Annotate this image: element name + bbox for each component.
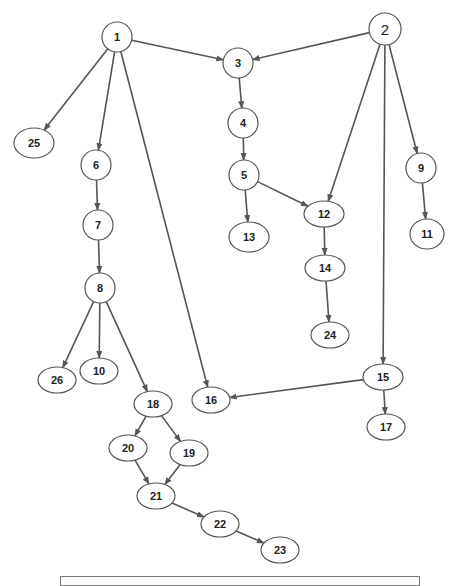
node-label: 18 [147,398,159,410]
edge-18-to-20 [135,416,146,436]
edge-1-to-25 [44,49,108,130]
node-11: 11 [410,219,444,249]
node-19: 19 [170,440,208,466]
node-label: 24 [324,329,337,341]
node-label: 19 [183,447,195,459]
node-label: 21 [150,490,162,502]
edge-5-to-13 [245,190,248,222]
node-label: 12 [318,208,330,220]
node-7: 7 [83,210,113,240]
node-label: 1 [114,31,120,43]
node-label: 22 [214,518,226,530]
edge-1-to-16 [121,52,208,388]
node-label: 16 [205,394,217,406]
edge-7-to-8 [99,240,100,273]
node-3: 3 [223,48,253,78]
edge-12-to-14 [324,227,325,255]
node-15: 15 [363,364,403,390]
node-24: 24 [311,322,349,348]
node-label: 17 [380,421,392,433]
node-26: 26 [38,367,76,393]
node-label: 14 [319,262,332,274]
edge-19-to-21 [165,465,180,485]
edge-9-to-11 [422,183,425,219]
edge-21-to-22 [172,503,204,517]
caption-box [60,576,420,586]
node-16: 16 [192,387,230,413]
node-22: 22 [201,511,239,537]
node-label: 15 [377,371,389,383]
node-label: 5 [241,169,247,181]
node-9: 9 [406,153,436,183]
edge-3-to-4 [239,78,242,108]
node-23: 23 [261,537,299,563]
node-1: 1 [102,22,132,52]
edge-2-to-15 [383,45,385,364]
edge-22-to-23 [236,531,264,543]
node-18: 18 [134,391,172,417]
node-label: 13 [243,231,255,243]
edge-14-to-24 [326,281,329,322]
node-10: 10 [80,358,118,384]
node-8: 8 [85,273,115,303]
node-label: 11 [421,228,433,240]
node-label: 6 [93,159,99,171]
node-21: 21 [137,483,175,509]
node-label: 23 [274,544,286,556]
edge-18-to-19 [162,416,181,442]
node-25: 25 [14,128,54,158]
node-20: 20 [109,435,147,461]
node-6: 6 [81,150,111,180]
node-label: 4 [240,117,247,129]
node-label: 20 [122,442,134,454]
node-4: 4 [228,108,258,138]
edge-15-to-17 [384,390,385,414]
edge-2-to-3 [253,33,370,60]
node-label: 26 [51,374,63,386]
edge-1-to-3 [132,40,224,60]
edge-8-to-10 [99,303,100,358]
node-label: 9 [418,162,424,174]
edge-2-to-12 [328,44,380,201]
edge-8-to-26 [63,302,94,368]
node-5: 5 [229,160,259,190]
node-12: 12 [304,201,344,227]
node-2: 2 [369,13,401,45]
node-label: 3 [235,57,241,69]
edge-1-to-6 [98,52,114,150]
node-13: 13 [229,222,269,252]
node-label: 10 [93,365,105,377]
edge-5-to-12 [258,182,309,207]
nodes-layer: 1234567891011121314151617181920212223242… [14,13,444,563]
edge-20-to-21 [135,460,149,484]
node-label: 25 [28,137,40,149]
edge-15-to-16 [230,380,364,398]
node-17: 17 [367,414,405,440]
node-label: 2 [381,21,389,38]
node-label: 8 [97,282,103,294]
edge-2-to-9 [389,45,417,154]
node-label: 7 [95,219,101,231]
node-14: 14 [305,255,345,281]
edge-6-to-7 [97,180,98,210]
